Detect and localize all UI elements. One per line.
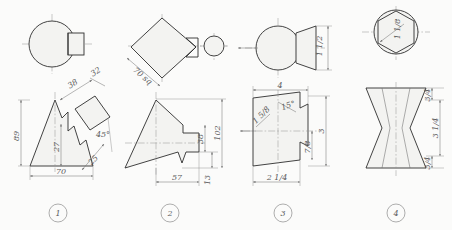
dimension-label: 70 sq (131, 66, 154, 87)
dimension-label: 32 (89, 65, 102, 78)
figure-4: 1 1/8 3/4 3 1/4 3/4 (362, 6, 444, 176)
figure-number-label: 3 (280, 209, 285, 218)
dimension-label: 4 (276, 81, 282, 90)
dimension-label: 27 (52, 141, 61, 153)
dimension-label: 70 (56, 167, 66, 176)
figure-2-front-view (125, 92, 205, 176)
figure-number-label: 2 (166, 209, 172, 218)
dimension-label: 3/4 (423, 89, 432, 102)
figure-3-top-view (238, 18, 325, 78)
figure-number-2: 2 (161, 204, 179, 222)
figure-number-1: 1 (49, 204, 67, 222)
dimension-label: 45° (95, 130, 110, 139)
figure-4-dimensions: 3/4 3 1/4 3/4 (423, 88, 444, 169)
drawing-sheet: 89 70 27 38 32 25 45° (0, 0, 452, 230)
technical-drawing-canvas: 89 70 27 38 32 25 45° (0, 0, 452, 230)
figure-1-top-view (22, 14, 92, 74)
dimension-label: 38 (66, 77, 79, 90)
dimension-label: 7/8 (303, 141, 312, 154)
figure-number-label: 1 (55, 209, 60, 218)
dimension-label: 102 (213, 125, 222, 140)
figure-number-badges: 1 2 3 4 (49, 204, 405, 222)
dimension-label: 3 (317, 128, 326, 133)
dimension-label: 38 (196, 134, 205, 144)
dimension-label: 89 (12, 131, 21, 141)
figure-number-label: 4 (392, 209, 398, 218)
figure-3: 4 15° 1 5/8 2 1/4 3 7/8 1 1/2 (238, 18, 332, 186)
figure-number-3: 3 (274, 204, 292, 222)
dimension-label: 1 1/8 (393, 19, 402, 40)
dimension-label: 3 1/4 (431, 118, 440, 139)
dimension-label: 1 1/2 (315, 36, 324, 57)
figure-2: 70 sq 57 13 102 38 (125, 14, 228, 186)
figure-4-front-view (366, 82, 426, 176)
dimension-label: 3/4 (423, 157, 432, 170)
figure-number-4: 4 (387, 204, 405, 222)
figure-1: 89 70 27 38 32 25 45° (12, 14, 112, 180)
figure-4-top-view: 1 1/8 (362, 6, 430, 60)
dimension-label: 57 (172, 173, 183, 182)
dimension-label: 2 1/4 (266, 173, 288, 182)
dimension-label: 13 (203, 175, 212, 185)
